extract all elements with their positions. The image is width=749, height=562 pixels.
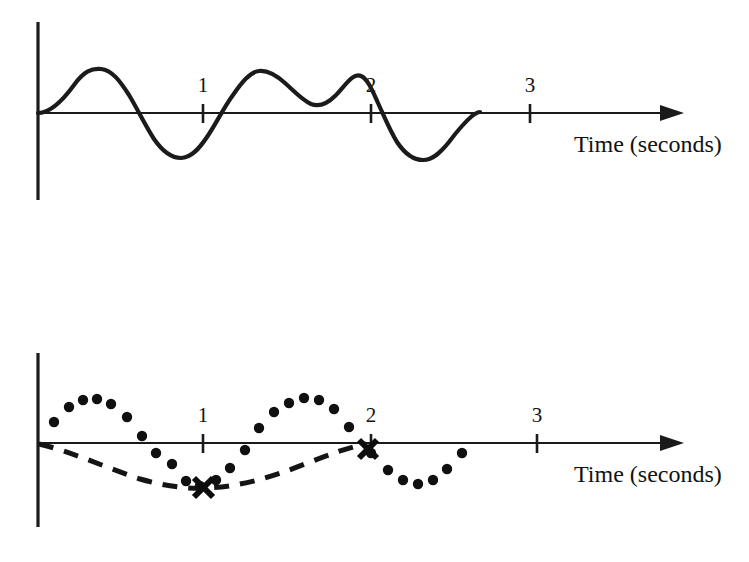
sample-dot bbox=[64, 402, 74, 412]
sample-dot-group-2 bbox=[254, 393, 354, 433]
sample-dot bbox=[442, 464, 452, 474]
x-axis-arrow-icon bbox=[660, 105, 684, 121]
sample-dot bbox=[106, 399, 116, 409]
sample-dot bbox=[314, 395, 324, 405]
x-tick-label-2: 2 bbox=[366, 403, 377, 427]
sample-dot bbox=[92, 394, 102, 404]
x-axis-title: Time (seconds) bbox=[574, 461, 722, 487]
sample-dot bbox=[428, 475, 438, 485]
sample-dot bbox=[137, 431, 147, 441]
sample-dot bbox=[398, 475, 408, 485]
sample-dot bbox=[49, 417, 59, 427]
sample-dot bbox=[269, 407, 279, 417]
analog-waveform-panel: 1 2 3 Time (seconds) bbox=[0, 0, 749, 281]
sample-dot bbox=[413, 479, 423, 489]
sample-dot bbox=[457, 448, 467, 458]
sample-dot bbox=[344, 422, 354, 432]
x-axis-title: Time (seconds) bbox=[574, 131, 722, 157]
sample-dot bbox=[167, 459, 177, 469]
sample-dot bbox=[122, 412, 132, 422]
sample-dot bbox=[225, 463, 235, 473]
x-axis-arrow-icon bbox=[660, 435, 684, 451]
sample-dot bbox=[181, 476, 191, 486]
figure-root: 1 2 3 Time (seconds) 1 2 3 bbox=[0, 0, 749, 562]
sample-dot bbox=[329, 404, 339, 414]
analog-waveform-svg: 1 2 3 Time (seconds) bbox=[0, 0, 749, 281]
x-tick-label-3: 3 bbox=[525, 73, 536, 97]
sample-dot-group-3 bbox=[366, 448, 467, 489]
sample-dot bbox=[284, 398, 294, 408]
sampled-waveform-svg: 1 2 3 Time (seconds) bbox=[0, 281, 749, 562]
x-tick-label-3: 3 bbox=[532, 403, 543, 427]
sampled-waveform-panel: 1 2 3 Time (seconds) bbox=[0, 281, 749, 562]
sample-dot bbox=[383, 465, 393, 475]
analog-sine-curve bbox=[38, 69, 480, 160]
sample-dot bbox=[78, 395, 88, 405]
sample-dot bbox=[240, 445, 250, 455]
x-tick-label-1: 1 bbox=[198, 403, 209, 427]
sample-dot bbox=[299, 393, 309, 403]
x-tick-label-1: 1 bbox=[198, 73, 209, 97]
sample-dot bbox=[254, 423, 264, 433]
sample-dot bbox=[151, 448, 161, 458]
